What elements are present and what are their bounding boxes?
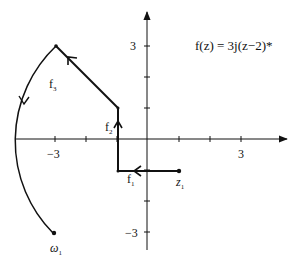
- point-z1: [177, 169, 181, 173]
- complex-plane-diagram: −3 3 3 −3 f(z) = 3j(z−2)* z1 ω1 f1 f2 f3: [0, 0, 303, 265]
- label-z1: z1: [175, 175, 185, 191]
- point-w1: [52, 231, 56, 235]
- y-label-pos3: 3: [130, 39, 136, 53]
- label-f3: f3: [49, 77, 57, 93]
- label-w1: ω1: [50, 241, 62, 257]
- point-corner-2: [117, 107, 120, 110]
- label-f1: f1: [127, 172, 135, 188]
- x-label-neg3: −3: [47, 147, 60, 161]
- x-label-pos3: 3: [238, 147, 244, 161]
- f3-segment: [56, 46, 118, 108]
- equation-label: f(z) = 3j(z−2)*: [195, 38, 272, 53]
- label-f2: f2: [105, 120, 113, 136]
- point-corner-1: [117, 170, 120, 173]
- point-corner-3: [54, 44, 58, 48]
- y-label-neg3: −3: [125, 226, 138, 240]
